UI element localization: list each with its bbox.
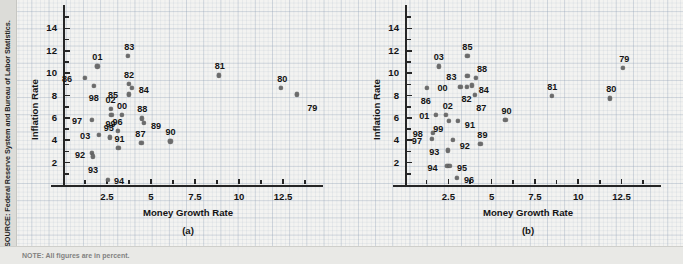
y-axis-title: Inflation Rate [29,79,40,140]
y-tick-major [65,28,70,30]
data-point-label: 93 [429,148,439,157]
data-point [474,76,478,80]
data-point [108,135,112,139]
data-point-label: 89 [477,131,487,140]
x-tick-major [194,179,196,184]
data-point [106,178,110,182]
x-tick-major [577,179,579,184]
source-strip: SOURCE: Federal Reserve System and Burea… [0,0,17,247]
y-tick-major [407,95,412,97]
x-tick-major [282,179,284,184]
data-point-label: 88 [137,105,147,114]
data-point-label: 93 [88,166,98,175]
x-tick-label: 2.5 [93,191,121,202]
data-point-label: 00 [117,102,127,111]
data-point [465,54,469,58]
y-tick-minor [65,128,69,130]
data-point-label: 88 [477,65,487,74]
data-point [295,92,299,96]
x-tick-label: 2.5 [434,191,462,202]
y-tick-minor [65,151,69,153]
y-tick-label: 12 [379,45,399,56]
x-tick-minor [304,180,306,184]
data-point [478,142,482,146]
y-tick-minor [407,16,411,18]
data-point-label: 80 [606,85,616,94]
y-tick-label: 14 [37,22,57,33]
x-tick-minor [426,180,428,184]
y-tick-label: 4 [379,134,399,145]
data-point-label: 82 [124,71,134,80]
x-tick-major [238,179,240,184]
x-tick-label: 5 [137,191,165,202]
data-point [126,54,130,58]
y-tick-major [65,139,70,141]
y-tick-minor [65,106,69,108]
data-point-label: 79 [307,104,317,113]
y-tick-label: 2 [379,157,399,168]
x-tick-label: 12.5 [269,191,297,202]
x-tick-label: 7.5 [521,191,549,202]
y-tick-major [407,117,412,119]
data-point-label: 86 [421,97,431,106]
y-tick-minor [407,128,411,130]
y-tick-label: 10 [37,67,57,78]
x-tick-label: 10 [564,191,592,202]
data-point [130,86,134,90]
data-point [109,112,113,116]
y-tick-minor [407,151,411,153]
data-point-label: 01 [92,53,102,62]
data-point-label: 81 [547,83,557,92]
data-point [217,73,221,77]
data-point [470,83,474,87]
data-point [120,113,124,117]
x-tick-minor [642,180,644,184]
y-tick-major [407,28,412,30]
y-tick-minor [65,61,69,63]
data-point [108,107,112,111]
data-point-label: 87 [135,130,145,139]
data-point-label: 95 [457,164,467,173]
y-tick-label: 2 [37,157,57,168]
y-tick-major [65,162,70,164]
data-point-label: 86 [62,75,72,84]
data-point-label: 92 [460,142,470,151]
data-point [91,154,95,158]
y-tick-minor [65,39,69,41]
x-tick-major [621,179,623,184]
data-point-label: 96 [464,176,474,185]
data-point [425,86,429,90]
y-tick-label: 12 [37,45,57,56]
data-point [447,119,451,123]
data-point-label: 84 [479,86,489,95]
data-point-label: 89 [151,122,161,131]
x-tick-label: 7.5 [181,191,209,202]
data-point-label: 99 [105,120,115,129]
data-point-label: 92 [75,151,85,160]
y-tick-minor [65,16,69,18]
y-tick-major [407,50,412,52]
y-tick-label: 4 [37,134,57,145]
x-axis-line [393,185,661,187]
chart-panel-b: 24681012142.557.51012.5Inflation RateMon… [360,0,680,247]
data-point [444,113,448,117]
panel-subcaption: (a) [158,225,218,236]
data-point [455,176,459,180]
data-point [437,64,441,68]
x-tick-minor [84,180,86,184]
data-point [115,129,119,133]
data-point-label: 80 [277,75,287,84]
y-tick-major [65,117,70,119]
data-point [139,141,143,145]
x-tick-major [534,179,536,184]
data-point-label: 03 [80,132,90,141]
y-axis-title: Inflation Rate [371,79,382,140]
data-point-label: 90 [501,107,511,116]
data-point [451,138,455,142]
x-tick-minor [599,180,601,184]
data-point-label: 79 [619,55,629,64]
y-tick-major [65,50,70,52]
y-tick-minor [407,61,411,63]
data-point [168,139,172,143]
x-tick-minor [216,180,218,184]
